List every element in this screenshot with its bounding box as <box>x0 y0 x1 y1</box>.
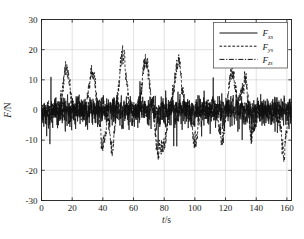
x-tick-label: 140 <box>249 203 263 213</box>
y-tick-label: 0 <box>33 105 38 115</box>
y-tick-label: 10 <box>29 75 39 85</box>
x-tick-label: 160 <box>280 203 294 213</box>
x-axis-title: t/s <box>162 215 171 225</box>
y-tick-label: 30 <box>29 15 39 25</box>
x-tick-label: 0 <box>39 203 44 213</box>
x-tick-label: 120 <box>219 203 233 213</box>
x-tick-label: 20 <box>68 203 78 213</box>
y-axis-title: F/N <box>3 102 13 118</box>
y-tick-label: -10 <box>26 135 38 145</box>
x-tick-label: 80 <box>160 203 170 213</box>
y-tick-label: -20 <box>26 166 38 176</box>
y-tick-label: 20 <box>29 45 39 55</box>
x-tick-label: 40 <box>98 203 108 213</box>
legend-box <box>214 23 288 69</box>
chart-legend: FxsFysFzs <box>214 23 288 69</box>
x-tick-label: 60 <box>129 203 139 213</box>
x-tick-label: 100 <box>188 203 202 213</box>
y-tick-label: -30 <box>26 196 38 206</box>
force-time-chart: 020406080100120140160 -30-20-100102030 t… <box>0 0 304 239</box>
figure-container: 020406080100120140160 -30-20-100102030 t… <box>0 0 304 239</box>
